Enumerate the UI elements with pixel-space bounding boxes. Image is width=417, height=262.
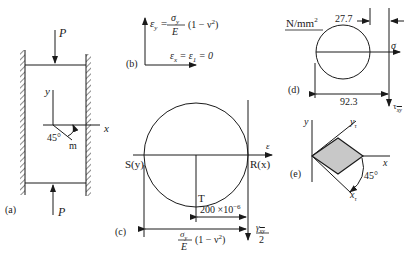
eq-eps-y: εy =	[150, 17, 168, 32]
line-m-label: m	[69, 140, 77, 151]
load-top-label: P	[59, 26, 66, 41]
axis-x-label-a: x	[104, 122, 109, 134]
panel-label-a: (a)	[5, 204, 16, 215]
dim-large-label: 92.3	[340, 96, 358, 107]
gamma-denominator: 2	[259, 234, 264, 245]
axis-tau-label: τxy	[393, 101, 402, 113]
angle-label-e: 45°	[364, 170, 378, 181]
eq-b-denominator: E	[172, 26, 178, 37]
axis-x-label-e: x	[383, 157, 387, 168]
axis-y-label-e: y	[304, 116, 308, 127]
axis-eps-label: ε	[266, 141, 270, 151]
dim-total-factor: (1 − ν2)	[195, 233, 225, 245]
dim-radius-label: 200 ×10−6	[200, 203, 241, 215]
axis-y-label-a: y	[45, 85, 50, 97]
angle-label-a: 45°	[47, 132, 61, 143]
eq-eps-x: εx = ε1 = 0	[170, 50, 213, 64]
gamma-numerator: γxy	[256, 222, 265, 234]
point-r-label: R(x)	[250, 158, 270, 170]
units-label: N/mm2	[286, 16, 318, 29]
dim-total-denominator: E	[181, 241, 187, 252]
dim-small-label: 27.7	[335, 13, 353, 24]
load-bottom-label: P	[58, 205, 65, 220]
axis-yt-label: yτ	[350, 116, 357, 129]
panel-label-c: (c)	[115, 226, 126, 237]
point-s-label: S(y)	[125, 158, 144, 170]
panel-label-e: (e)	[290, 168, 301, 179]
eq-b-factor: (1 − ν2)	[188, 18, 218, 30]
axis-xt-label: xτ	[350, 189, 357, 202]
panel-label-b: (b)	[126, 58, 138, 69]
panel-label-d: (d)	[288, 84, 300, 95]
axis-sigma-label: σ	[391, 40, 396, 51]
eq-b-numerator: σy	[171, 12, 179, 26]
dim-total-numerator: σy	[180, 229, 187, 241]
